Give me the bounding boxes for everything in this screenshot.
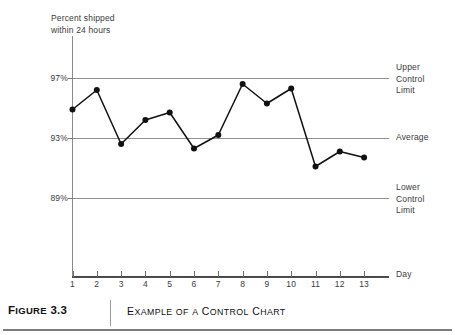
- data-point-day-4: [142, 117, 148, 123]
- figure-control-chart: Percent shippedwithin 24 hours 97% 93% 8…: [0, 0, 455, 335]
- caption-part-4: C: [202, 305, 210, 317]
- caption-part-2: OF: [176, 307, 189, 317]
- chart-plot-area: Percent shippedwithin 24 hours 97% 93% 8…: [0, 0, 455, 296]
- data-series-line: [0, 0, 455, 296]
- data-point-day-7: [215, 132, 221, 138]
- figure-number-rest: IGURE: [15, 305, 47, 316]
- caption-part-1: XAMPLE: [134, 307, 172, 317]
- caption-divider: [110, 300, 111, 326]
- figure-caption-bar: FIGURE 3.3 EXAMPLE OF A CONTROL CHART: [0, 298, 455, 335]
- data-point-day-12: [337, 149, 343, 155]
- figure-caption-text: EXAMPLE OF A CONTROL CHART: [127, 305, 286, 317]
- data-point-day-3: [118, 141, 124, 147]
- caption-bottom-rule: [3, 329, 452, 331]
- series-polyline: [73, 84, 365, 167]
- series-markers: [70, 81, 368, 170]
- data-point-day-10: [288, 86, 294, 92]
- caption-part-5: ONTROL: [210, 307, 249, 317]
- figure-number-value: 3.3: [50, 304, 67, 316]
- caption-part-3: A: [192, 307, 198, 317]
- data-point-day-2: [94, 87, 100, 93]
- data-point-day-8: [240, 81, 246, 87]
- data-point-day-9: [264, 101, 270, 107]
- data-point-day-5: [167, 110, 173, 116]
- data-point-day-6: [191, 146, 197, 152]
- caption-part-7: HART: [260, 307, 285, 317]
- data-point-day-1: [70, 107, 76, 113]
- data-point-day-13: [361, 155, 367, 161]
- figure-number: FIGURE 3.3: [8, 304, 67, 316]
- data-point-day-11: [313, 164, 319, 170]
- caption-part-6: C: [252, 305, 260, 317]
